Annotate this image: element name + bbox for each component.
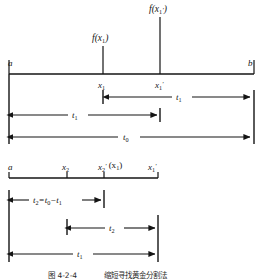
- lower-axis: [9, 172, 158, 178]
- measure-t1-lower: t1: [9, 208, 158, 262]
- golden-section-figure: f(x1′) f(x1) a b x1 x1′ t1: [0, 0, 263, 280]
- measure-t1-left: t1: [9, 74, 160, 122]
- t2-span-label: t2: [109, 223, 115, 234]
- figure-svg: f(x1′) f(x1) a b x1 x1′ t1: [0, 0, 263, 280]
- label-x1-upper: x1: [97, 80, 105, 91]
- t1-left-label: t1: [72, 110, 78, 121]
- f-x1-text: f(x1): [92, 33, 108, 44]
- label-x2-lower: x2: [61, 162, 69, 173]
- function-label-f-x1-prime: f(x1′): [149, 4, 167, 74]
- measure-t1-right: t1: [103, 90, 254, 104]
- t2-equation-label: t2=t0−t1: [33, 195, 62, 206]
- label-x2-prime-with-annotation: x2′(x1): [97, 160, 122, 173]
- function-label-f-x1: f(x1): [92, 33, 108, 74]
- label-x2-prime-lower: x2′(x1): [97, 160, 122, 173]
- measure-t2-span: t2: [67, 215, 158, 235]
- measure-t2-equation: t2=t0−t1: [9, 190, 104, 208]
- figure-caption-label: 图 4-2-4: [48, 271, 77, 280]
- t0-label: t0: [123, 132, 129, 143]
- label-x1-prime-upper: x1′: [154, 80, 164, 91]
- measure-t0-full: t0: [9, 104, 254, 144]
- t1-right-label: t1: [176, 92, 182, 103]
- label-a-lower: a: [8, 162, 13, 172]
- upper-axis: [9, 60, 254, 74]
- figure-caption-text: 缩短寻找黄金分割法: [104, 270, 168, 280]
- t1-lower-label: t1: [77, 249, 83, 260]
- label-b-upper: b: [248, 58, 253, 68]
- label-x1-prime-lower: x1′: [147, 162, 157, 173]
- f-x1-prime-text: f(x1′): [149, 4, 167, 15]
